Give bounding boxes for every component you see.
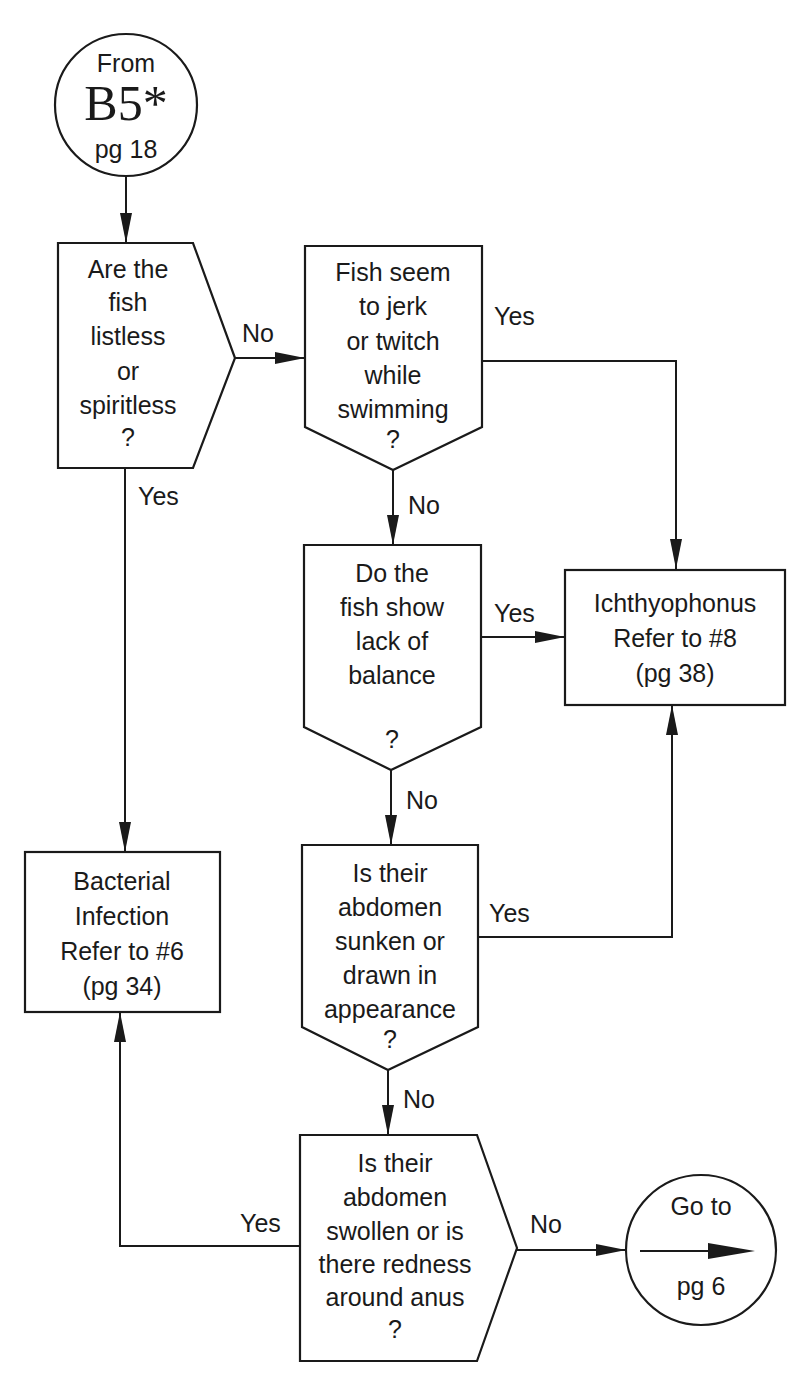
decision-listless-line: spiritless [79,391,176,419]
start-connector: From B5* pg 18 [55,34,197,176]
result-ichthyophonus-line: Ichthyophonus [594,589,757,617]
decision-balance-line: Do the [355,559,429,587]
decision-balance: Do the fish show lack of balance ? [304,545,481,770]
arrow-sunken-yes: Yes [478,705,678,937]
arrowhead-icon [385,815,397,845]
start-connector-ref: B5* [84,75,167,131]
end-connector-goto: Go to [670,1192,731,1220]
arrowhead-icon [596,1244,626,1256]
arrow-listless-no: No [235,319,305,364]
edge-label-yes: Yes [489,899,530,927]
decision-swollen-line: around anus [325,1283,464,1311]
decision-swollen-line: swollen or is [326,1217,464,1245]
decision-swollen-line: there redness [319,1250,472,1278]
decision-listless: Are the fish listless or spiritless ? [58,243,235,468]
arrowhead-icon [535,631,565,643]
decision-sunken-line: sunken or [335,927,445,955]
result-bacterial-line: Infection [75,902,170,930]
decision-balance-line: balance [348,661,436,689]
edge-label-no: No [242,319,274,347]
arrow-swollen-no: No [517,1210,626,1256]
arrow-balance-no: No [385,770,438,845]
arrowhead-icon [119,822,131,852]
arrowhead-icon [382,1105,394,1135]
arrowhead-icon [387,515,399,545]
result-bacterial: Bacterial Infection Refer to #6 (pg 34) [25,852,220,1012]
arrowhead-icon [120,213,132,243]
result-bacterial-line: Refer to #6 [60,937,184,965]
result-ichthyophonus: Ichthyophonus Refer to #8 (pg 38) [565,570,785,705]
decision-balance-line: lack of [356,627,428,655]
decision-swollen-line: abdomen [343,1183,447,1211]
decision-swollen-line: ? [388,1315,402,1343]
edge-label-yes: Yes [494,302,535,330]
arrowhead-icon [114,1012,126,1042]
arrow-sunken-no: No [382,1070,435,1135]
decision-swollen-line: Is their [357,1149,432,1177]
arrowhead-icon [670,539,682,569]
decision-sunken-line: appearance [324,995,456,1023]
decision-listless-line: fish [109,288,148,316]
decision-balance-line: ? [385,725,399,753]
edge-label-no: No [408,491,440,519]
edge-label-no: No [406,786,438,814]
edge-label-yes: Yes [494,599,535,627]
start-connector-from: From [97,49,155,77]
decision-jerk-line: ? [386,425,400,453]
result-bacterial-line: (pg 34) [82,972,161,1000]
decision-listless-line: ? [121,423,135,451]
edge-label-no: No [530,1210,562,1238]
end-connector: Go to pg 6 [626,1175,776,1325]
decision-sunken-line: abdomen [338,893,442,921]
decision-jerk: Fish seem to jerk or twitch while swimmi… [305,246,482,470]
flowchart: From B5* pg 18 Are the fish listless or … [0,0,808,1391]
start-connector-page: pg 18 [95,135,158,163]
decision-sunken-line: Is their [352,859,427,887]
decision-listless-line: or [117,357,139,385]
decision-sunken: Is their abdomen sunken or drawn in appe… [302,845,478,1070]
arrow-jerk-yes: Yes [482,302,682,569]
arrow-swollen-yes: Yes [114,1012,300,1246]
decision-jerk-line: to jerk [359,292,428,320]
arrow-balance-yes: Yes [481,599,565,643]
decision-listless-line: listless [90,322,165,350]
decision-listless-line: Are the [88,255,169,283]
arrowhead-icon [666,705,678,735]
decision-sunken-line: drawn in [343,961,438,989]
decision-sunken-line: ? [383,1025,397,1053]
result-ichthyophonus-line: (pg 38) [635,659,714,687]
decision-jerk-line: Fish seem [335,258,450,286]
arrowhead-icon [275,352,305,364]
arrow-listless-yes: Yes [119,468,179,852]
result-ichthyophonus-line: Refer to #8 [613,624,737,652]
decision-jerk-line: or twitch [346,327,439,355]
decision-balance-line: fish show [340,593,445,621]
arrow-start-to-listless [120,176,132,243]
arrow-jerk-no: No [387,470,440,545]
edge-label-yes: Yes [240,1209,281,1237]
end-connector-page: pg 6 [677,1272,726,1300]
decision-jerk-line: swimming [337,395,448,423]
result-bacterial-line: Bacterial [73,867,170,895]
edge-label-yes: Yes [138,482,179,510]
decision-swollen: Is their abdomen swollen or is there red… [300,1135,517,1361]
decision-jerk-line: while [364,361,422,389]
edge-label-no: No [403,1085,435,1113]
